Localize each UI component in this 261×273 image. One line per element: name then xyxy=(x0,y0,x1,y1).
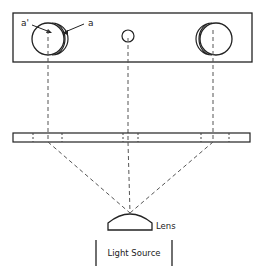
right-aperture xyxy=(196,23,232,55)
light-rays xyxy=(48,142,213,213)
light-source-label: Light Source xyxy=(107,248,160,258)
optical-diagram: a' a Lens Light Source xyxy=(0,0,261,273)
label-a-prime: a' xyxy=(21,18,29,28)
strip-ticks xyxy=(33,133,229,142)
label-a: a xyxy=(88,18,94,28)
left-aperture xyxy=(32,23,68,55)
lens-label: Lens xyxy=(156,221,176,231)
projection-lines xyxy=(48,30,213,142)
lens xyxy=(108,214,152,230)
strip xyxy=(13,133,250,142)
